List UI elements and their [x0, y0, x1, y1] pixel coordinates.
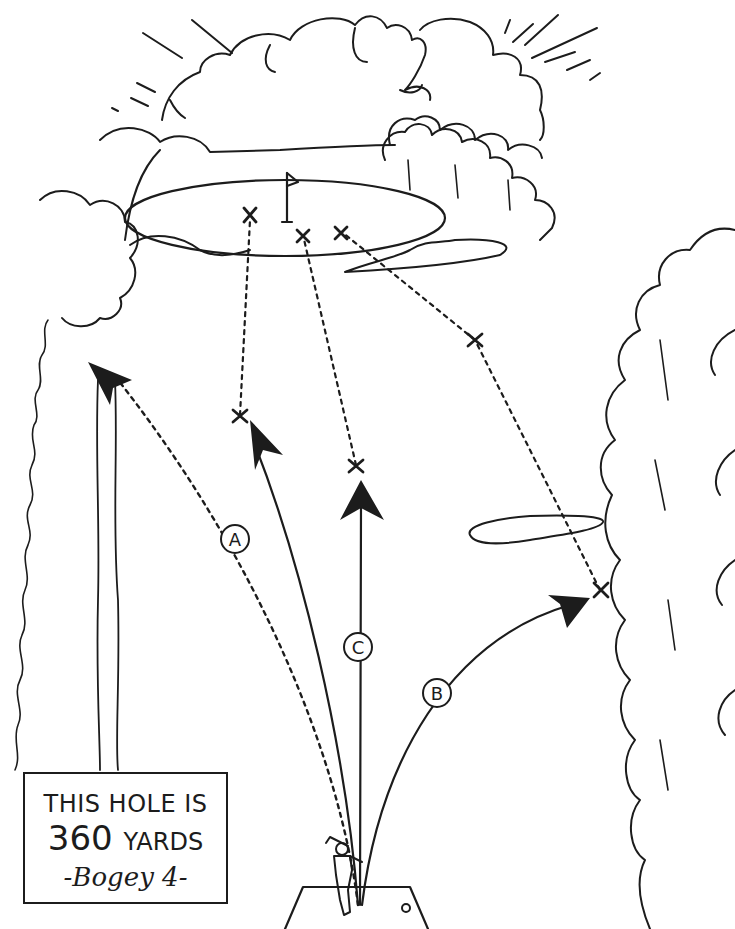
putting-green	[125, 180, 445, 256]
tree-line-right	[601, 229, 735, 929]
caption-bogey: -Bogey 4-	[25, 862, 226, 892]
caption-line-2: 360 YARDS	[25, 818, 226, 858]
x-marker-icon	[594, 583, 608, 597]
tree-left	[40, 191, 138, 326]
arrowhead-b-icon	[548, 595, 590, 628]
yardage-unit: YARDS	[124, 828, 204, 856]
x-marker-icon	[468, 334, 482, 346]
caption-line-1: THIS HOLE IS	[25, 790, 226, 818]
shot-label-c: C	[343, 632, 373, 662]
foliage-scribble-left	[15, 320, 48, 770]
sun-rays-left	[112, 20, 232, 111]
hole-yardage: 360	[48, 818, 113, 858]
bunker-fairway	[470, 516, 604, 544]
x-marker-icon	[297, 230, 309, 242]
approach-paths	[240, 220, 600, 590]
x-marker-icon	[244, 208, 256, 222]
bunker-greenside	[345, 240, 506, 272]
rough-left	[97, 380, 118, 770]
shot-label-a: A	[220, 524, 250, 554]
shot-path-c	[360, 505, 361, 905]
hole-info-caption: THIS HOLE IS 360 YARDS -Bogey 4-	[23, 772, 228, 904]
shot-path-b	[362, 605, 570, 905]
arrowhead-left-icon	[250, 420, 283, 470]
arrowhead-a-icon	[88, 362, 132, 405]
shot-label-b: B	[422, 678, 452, 708]
golf-ball-icon	[402, 904, 410, 912]
x-marker-icon	[335, 227, 347, 239]
shot-path-left-solid	[255, 445, 358, 905]
sun-rays-right	[505, 15, 600, 80]
